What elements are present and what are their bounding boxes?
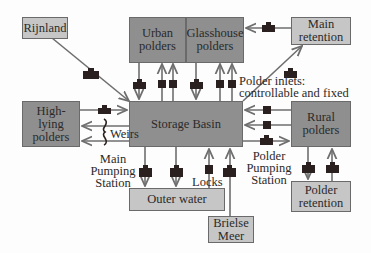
node-rural-polders-label: Rural polders <box>300 111 342 137</box>
node-urban-polders-label: Urban polders <box>136 27 179 53</box>
polder-inlets-line2: controllable and fixed <box>239 87 349 99</box>
node-brielse-meer-label: Brielse Meer <box>213 217 249 243</box>
node-rijnland-label: Rijnland <box>23 22 66 35</box>
weirs-label: Weirs <box>110 128 139 140</box>
node-storage-basin: Storage Basin <box>129 101 243 147</box>
node-rijnland: Rijnland <box>22 17 68 39</box>
water-system-diagram: Rijnland Urban polders Glasshouse polder… <box>0 0 371 253</box>
node-urban-polders: Urban polders <box>129 17 186 63</box>
polder-pumping-line3: Station <box>244 174 294 186</box>
polder-pumping-station-label: Polder Pumping Station <box>244 150 294 186</box>
node-glasshouse-polders-label: Glasshouse polders <box>187 27 244 53</box>
node-brielse-meer: Brielse Meer <box>208 216 254 243</box>
main-pumping-line3: Station <box>90 177 136 189</box>
node-outer-water-label: Outer water <box>147 193 206 206</box>
node-glasshouse-polders: Glasshouse polders <box>186 17 244 63</box>
node-high-lying-polders-label: High-lying polders <box>26 105 76 144</box>
node-high-lying-polders: High-lying polders <box>22 101 80 147</box>
node-polder-retention: Polder retention <box>291 181 351 212</box>
locks-label: Locks <box>192 176 223 188</box>
node-main-retention: Main retention <box>291 17 351 45</box>
node-main-retention-label: Main retention <box>298 18 344 44</box>
polder-inlets-label: Polder inlets: controllable and fixed <box>239 75 349 99</box>
node-outer-water: Outer water <box>129 188 225 211</box>
node-storage-basin-label: Storage Basin <box>151 118 221 131</box>
main-pumping-station-label: Main Pumping Station <box>90 153 136 189</box>
node-polder-retention-label: Polder retention <box>298 184 344 210</box>
node-rural-polders: Rural polders <box>291 101 351 147</box>
